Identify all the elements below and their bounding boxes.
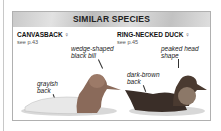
species-name-ring-necked-duck: RING-NECKED DUCK ♀	[117, 31, 190, 38]
ring-necked-duck-image	[123, 70, 211, 118]
species-name-canvasback: CANVASBACK ♀	[17, 31, 69, 38]
female-symbol-icon: ♀	[185, 31, 190, 38]
page-margin-line	[3, 0, 4, 131]
note-peaked-head: peaked head shape	[161, 45, 206, 59]
similar-species-panel: SIMILAR SPECIES CANVASBACK ♀ see p.43 RI…	[12, 11, 211, 121]
leader-line	[178, 59, 179, 68]
female-symbol-icon: ♀	[65, 31, 70, 38]
note-wedge-shaped-bill: wedge-shaped black bill	[71, 45, 121, 59]
panel-title: SIMILAR SPECIES	[13, 12, 210, 27]
page-ref-canvasback: see p.43	[17, 39, 38, 45]
canvasback-duck-image	[17, 67, 127, 119]
